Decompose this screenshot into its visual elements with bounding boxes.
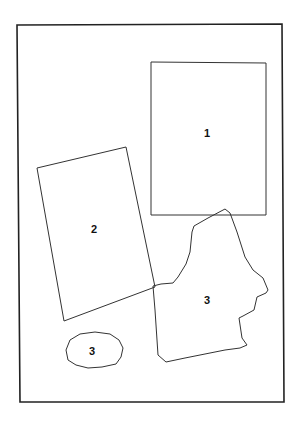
shape-irregular-3	[153, 209, 268, 362]
label-2: 2	[91, 223, 97, 235]
label-3-oval: 3	[89, 345, 95, 357]
diagram-canvas: 1 2 3 3	[0, 0, 299, 423]
label-1: 1	[204, 127, 210, 139]
label-3-irregular: 3	[204, 294, 210, 306]
